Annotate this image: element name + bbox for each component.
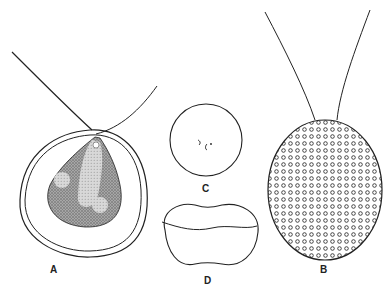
flagellum-b-right: [337, 10, 370, 120]
panel-d: D: [162, 204, 258, 286]
pyrenoid-right: [92, 197, 108, 213]
flagellum-b-left: [265, 12, 315, 120]
panel-c: C: [170, 104, 242, 194]
dividing-cell: [164, 204, 258, 264]
panel-a: A: [12, 52, 157, 275]
panel-b: B: [265, 10, 382, 275]
panel-label-b: B: [320, 264, 327, 275]
flagellum-left: [12, 52, 92, 130]
figure-canvas: A B C D: [0, 0, 389, 287]
panel-label-c: C: [202, 183, 209, 194]
panel-label-a: A: [50, 264, 57, 275]
pyrenoid-left: [54, 172, 70, 188]
stigma: [93, 142, 99, 148]
panel-label-d: D: [204, 275, 211, 286]
cyst: [170, 104, 242, 176]
flagellum-right: [96, 86, 157, 134]
cell-body-scaled: [268, 120, 382, 260]
